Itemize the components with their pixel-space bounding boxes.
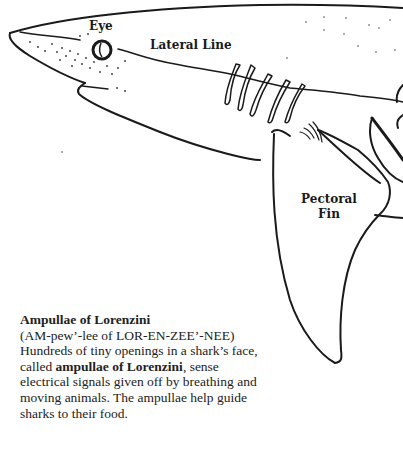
pectoral-fin-label-line1: Pectoral bbox=[296, 192, 362, 207]
shark-mouth bbox=[78, 83, 160, 132]
caption-pronunciation: (AM-pew’-lee of LOR-EN-ZEE’-NEE) bbox=[20, 328, 234, 343]
lateral-line bbox=[118, 49, 403, 102]
gill-slit bbox=[285, 84, 305, 123]
shark-mouth-line bbox=[20, 32, 80, 40]
shark-snout-outline bbox=[10, 33, 85, 83]
pectoral-fin bbox=[272, 130, 390, 363]
caption-body-bold: ampullae of Lorenzini bbox=[56, 359, 183, 374]
gill-slit bbox=[225, 64, 240, 104]
pectoral-fin-label-line2: Fin bbox=[296, 207, 362, 222]
gill-slit bbox=[238, 65, 255, 110]
eye-label: Eye bbox=[89, 19, 113, 34]
ampullae-dots bbox=[29, 33, 126, 92]
dorsal-fin-base bbox=[397, 85, 403, 102]
ampullae-caption: Ampullae of Lorenzini (AM-pew’-lee of LO… bbox=[20, 312, 260, 421]
lateral-line-label: Lateral Line bbox=[150, 38, 232, 53]
shark-belly-outline bbox=[160, 132, 260, 160]
shark-back-outline bbox=[10, 5, 403, 33]
eye-icon bbox=[93, 41, 111, 59]
caption-title: Ampullae of Lorenzini bbox=[20, 312, 260, 328]
pectoral-fin-label: Pectoral Fin bbox=[296, 192, 362, 222]
